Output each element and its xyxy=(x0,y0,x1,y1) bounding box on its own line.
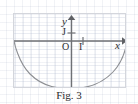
point-label-i: I xyxy=(79,42,82,52)
figure-container: y x J O I Fig. 3 xyxy=(0,0,138,104)
curve-arc xyxy=(14,41,126,88)
x-axis-label: x xyxy=(115,40,120,51)
point-label-j: J xyxy=(62,27,66,37)
plot-frame xyxy=(13,13,126,88)
origin-label: O xyxy=(62,42,69,52)
y-axis-arrow-icon xyxy=(68,15,76,20)
x-axis-arrow-icon xyxy=(122,37,126,45)
figure-caption: Fig. 3 xyxy=(0,89,138,101)
plot-canvas xyxy=(14,14,126,88)
